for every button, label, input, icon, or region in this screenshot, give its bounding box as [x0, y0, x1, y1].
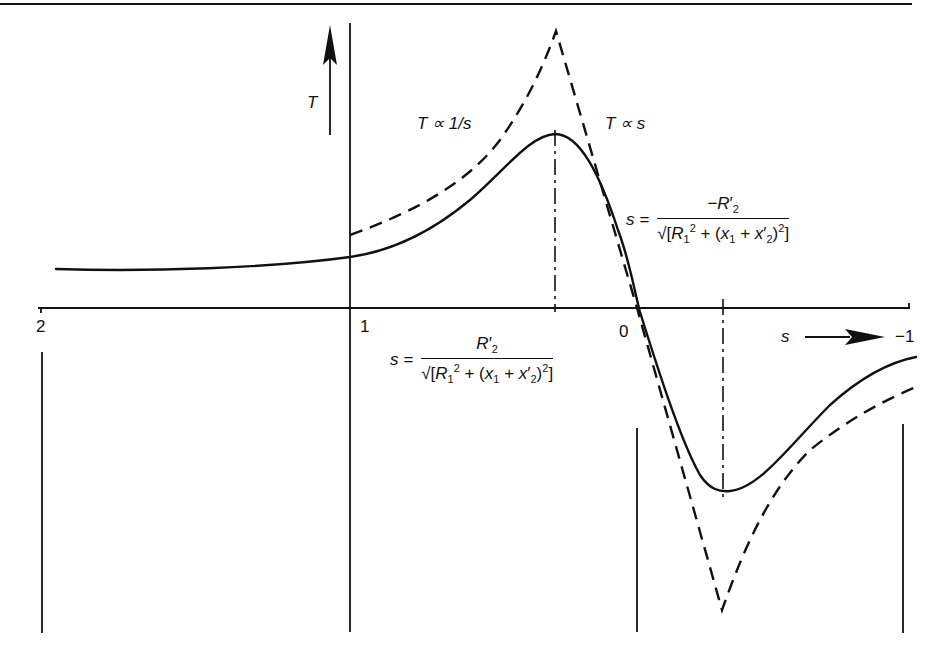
formula-lhs: s = [390, 350, 413, 370]
t-axis-label: T [307, 94, 317, 111]
torque-curve-exact [56, 134, 916, 491]
low-slip-annotation: T ∝ s [605, 115, 645, 132]
high-slip-annotation: T ∝ 1/s [417, 115, 472, 132]
formula-denominator: √[R12 + (x1 + x′2)2] [421, 359, 553, 385]
tick-label-2: 2 [36, 318, 45, 335]
formula-numerator: R′2 [421, 334, 553, 359]
tick-label-neg1: −1 [895, 328, 914, 345]
s-arrow-head-icon [845, 329, 885, 345]
formula-numerator: −R′2 [657, 194, 789, 219]
s-axis-label: s [781, 328, 790, 345]
max-torque-slip-formula-generating: s = −R′2 √[R12 + (x1 + x′2)2] [626, 194, 789, 245]
tick-label-1: 1 [360, 318, 369, 335]
formula-denominator: √[R12 + (x1 + x′2)2] [657, 219, 789, 245]
max-torque-slip-formula-motoring: s = R′2 √[R12 + (x1 + x′2)2] [390, 334, 553, 385]
tick-label-0: 0 [619, 323, 628, 340]
torque-slip-diagram [0, 0, 941, 658]
formula-lhs: s = [626, 210, 649, 230]
